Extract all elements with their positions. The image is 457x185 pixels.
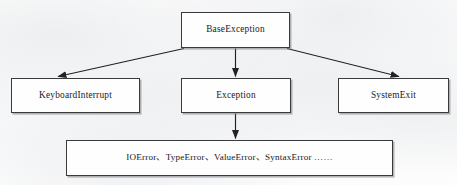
node-concrete-errors: IOError、TypeError、ValueError、SyntaxError…: [66, 140, 393, 176]
node-exception-label: Exception: [216, 91, 256, 100]
edge-base-to-keyboardinterrupt: [58, 49, 184, 77]
node-keyboard-interrupt: KeyboardInterrupt: [11, 78, 140, 113]
node-base-exception: BaseException: [181, 12, 290, 48]
node-concrete-errors-label: IOError、TypeError、ValueError、SyntaxError…: [126, 153, 332, 162]
node-base-exception-label: BaseException: [206, 25, 265, 34]
exception-hierarchy-diagram: BaseException KeyboardInterrupt Exceptio…: [0, 0, 457, 185]
edge-base-to-systemexit: [287, 49, 399, 77]
node-exception: Exception: [181, 78, 291, 113]
node-system-exit: SystemExit: [338, 78, 449, 113]
node-system-exit-label: SystemExit: [371, 91, 416, 100]
node-keyboard-interrupt-label: KeyboardInterrupt: [39, 91, 112, 100]
